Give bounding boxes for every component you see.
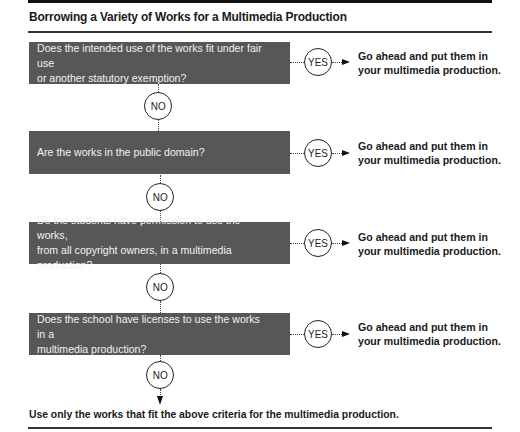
question-box-4: Does the school have licenses to use the… [29,313,290,355]
yes-circle-4: YES [304,320,332,348]
connector-yes-1 [290,62,304,63]
question-text-2: Are the works in the public domain? [37,145,262,160]
connector-result-1 [332,62,342,63]
title-rule [28,31,492,33]
connector-no-1a [158,84,159,92]
connector-yes-2 [290,153,304,154]
arrow-right-icon [342,240,350,246]
diagram-title: Borrowing a Variety of Works for a Multi… [29,9,347,24]
question-box-2: Are the works in the public domain? [29,131,290,174]
bottom-rule [28,427,492,429]
connector-result-4 [332,334,342,335]
arrow-right-icon [342,150,350,156]
yes-label: YES [308,237,328,249]
question-box-3: Do the students have permission to use t… [29,222,290,264]
connector-yes-4 [290,334,304,335]
connector-result-2 [332,153,342,154]
question-text-3: Do the students have permission to use t… [37,213,262,273]
arrow-right-icon [342,331,350,337]
no-label: NO [153,191,168,203]
result-text-4: Go ahead and put them in your multimedia… [358,320,514,348]
yes-circle-2: YES [304,139,332,167]
no-label: NO [153,369,168,381]
no-circle-1: NO [144,92,172,120]
question-box-1: Does the intended use of the works fit u… [29,42,290,84]
result-text-3: Go ahead and put them in your multimedia… [358,230,514,258]
no-label: NO [153,281,168,293]
result-text-1: Go ahead and put them in your multimedia… [358,49,514,77]
no-circle-2: NO [146,183,174,211]
connector-yes-3 [290,243,304,244]
question-text-1: Does the intended use of the works fit u… [37,41,262,86]
yes-label: YES [308,56,328,68]
yes-circle-3: YES [304,229,332,257]
question-text-4: Does the school have licenses to use the… [37,312,262,357]
result-text-2: Go ahead and put them in your multimedia… [358,139,514,167]
connector-no-3a [160,264,161,273]
connector-result-3 [332,243,342,244]
no-circle-4: NO [146,361,174,389]
arrow-down-icon [157,396,163,405]
no-label: NO [151,100,166,112]
arrow-right-icon [342,59,350,65]
yes-circle-1: YES [304,48,332,76]
final-result-text: Use only the works that fit the above cr… [29,408,399,420]
yes-label: YES [308,147,328,159]
connector-no-1b [158,120,159,131]
yes-label: YES [308,328,328,340]
top-border [28,0,492,3]
connector-no-2a [160,175,161,183]
no-circle-3: NO [146,273,174,301]
